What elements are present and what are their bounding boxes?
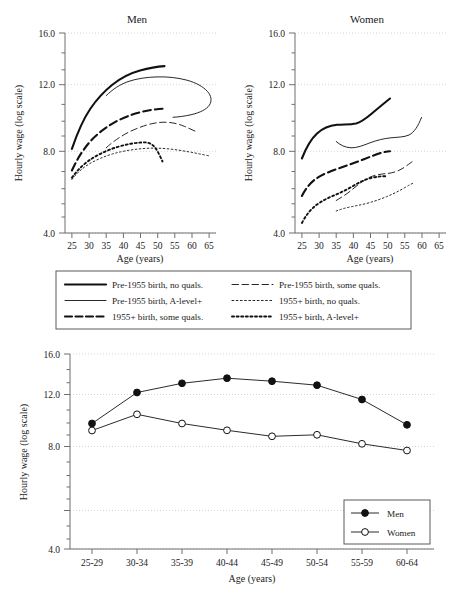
panel-women-xtick-50: 50	[383, 241, 393, 251]
panel-men-xtick-55: 55	[170, 241, 180, 251]
curve-women-pre1955-some-quals	[336, 162, 412, 201]
panel-bottom-ytick-4: 4.0	[48, 545, 60, 555]
panel-bottom-xtick-7: 60-64	[396, 558, 418, 568]
panel-bottom-xtick-1: 30-34	[126, 558, 148, 568]
curve-women-pre1955-no-quals	[302, 99, 390, 159]
panel-men-xlabel: Age (years)	[117, 253, 164, 265]
panel-bottom-yaxis: 16.0 12.0 8.0 4.0 Hourly wage (log scale…	[18, 350, 70, 555]
legend-label-pre1955-alevel: Pre-1955 birth, A-level+	[112, 296, 202, 306]
panel-women-xtick-35: 35	[331, 241, 341, 251]
curve-men-pre1955-no-quals	[72, 66, 165, 149]
panel-women-ylabel: Hourly wage (log scale)	[243, 85, 255, 181]
panel-bottom-xlabel: Age (years)	[229, 573, 276, 585]
panel-men-xaxis: 25 30 35 40 45 50 55 60 65 Age (years)	[65, 233, 216, 265]
curve-men-pre1955-some-quals	[106, 122, 197, 148]
panel-women-ytick-16: 16.0	[268, 29, 285, 39]
series-women-point	[269, 433, 276, 440]
series-men-point	[359, 396, 366, 403]
series-women-point	[359, 440, 366, 447]
series-men-point	[224, 375, 231, 382]
panel-women-title: Women	[350, 13, 384, 25]
series-women-point	[179, 420, 186, 427]
series-women-point	[314, 431, 321, 438]
panel-bottom-ylabel: Hourly wage (log scale)	[18, 404, 30, 500]
legend-bottom: Men Women	[344, 500, 430, 544]
series-women	[89, 411, 411, 454]
legend-label-1955plus-no-quals: 1955+ birth, no quals.	[279, 296, 360, 306]
legend-label-pre1955-no-quals: Pre-1955 birth, no quals.	[112, 280, 203, 290]
curve-women-1955plus-alevel	[302, 176, 387, 223]
panel-men-ytick-12: 12.0	[38, 80, 55, 90]
panel-bottom-xtick-0: 25-29	[81, 558, 103, 568]
curve-women-1955plus-no-quals	[336, 184, 412, 212]
series-women-point	[134, 411, 141, 418]
panel-women-ytick-12: 12.0	[268, 80, 285, 90]
panel-men-xtick-35: 35	[101, 241, 111, 251]
legend-bottom-women-label: Women	[387, 528, 416, 538]
panel-men-xtick-65: 65	[204, 241, 214, 251]
panel-men: Men	[13, 13, 216, 265]
panel-men-xtick-25: 25	[67, 241, 77, 251]
figure-svg: Men	[0, 0, 463, 602]
legend-label-1955plus-some-quals: 1955+ birth, some quals.	[112, 312, 203, 322]
legend-bottom-men-marker	[362, 510, 369, 517]
series-men-point	[89, 420, 96, 427]
legend-bottom-women-marker	[362, 529, 369, 536]
panel-men-xtick-60: 60	[187, 241, 197, 251]
figure-container: Men	[0, 0, 463, 602]
panel-women-yaxis: 16.0 12.0 8.0 4.0 Hourly wage (log scale…	[243, 29, 295, 239]
panel-bottom-xtick-3: 40-44	[216, 558, 238, 568]
legend-bottom-men-label: Men	[387, 509, 404, 519]
series-men-point	[314, 382, 321, 389]
panel-men-yaxis: 16.0 12.0 8.0 4.0 Hourly wage (log scale…	[13, 29, 65, 239]
panel-women-xaxis: 25 30 35 40 45 50 55 60 65 Age (years)	[295, 233, 446, 265]
panel-bottom: 16.0 12.0 8.0 4.0 Hourly wage (log scale…	[18, 350, 434, 586]
panel-bottom-xtick-2: 35-39	[171, 558, 193, 568]
legend-label-1955plus-alevel: 1955+ birth, A-level+	[279, 312, 359, 322]
panel-women-xtick-60: 60	[417, 241, 427, 251]
series-women-point	[89, 427, 96, 434]
panel-women-xtick-65: 65	[434, 241, 444, 251]
curve-women-pre1955-alevel	[336, 118, 421, 148]
panel-men-gridlines	[65, 33, 216, 233]
panel-bottom-xtick-4: 45-49	[261, 558, 283, 568]
panel-bottom-ytick-16: 16.0	[43, 350, 60, 360]
curve-men-1955plus-no-quals	[72, 148, 209, 179]
series-men-point	[134, 389, 141, 396]
panel-women-xtick-45: 45	[366, 241, 376, 251]
panel-men-title: Men	[127, 13, 148, 25]
panel-men-xtick-45: 45	[136, 241, 146, 251]
panel-men-ytick-16: 16.0	[38, 29, 55, 39]
panel-men-xtick-30: 30	[84, 241, 94, 251]
panel-women-xtick-25: 25	[297, 241, 307, 251]
panel-bottom-xaxis: 25-29 30-34 35-39 40-44 45-49 50-54 55-5…	[70, 549, 434, 585]
panel-women-curves	[302, 99, 422, 224]
panel-women-xtick-30: 30	[314, 241, 324, 251]
series-men-point	[179, 380, 186, 387]
panel-men-ylabel: Hourly wage (log scale)	[13, 85, 25, 181]
panel-women-xlabel: Age (years)	[347, 253, 394, 265]
series-men-point	[269, 378, 276, 385]
legend-label-pre1955-some-quals: Pre-1955 birth, some quals.	[279, 280, 380, 290]
panel-men-curves	[72, 66, 211, 179]
panel-women-ytick-8: 8.0	[273, 147, 285, 157]
series-men-point	[404, 421, 411, 428]
curve-men-pre1955-alevel	[106, 77, 211, 117]
panel-bottom-xtick-6: 55-59	[351, 558, 373, 568]
panel-bottom-ytick-8: 8.0	[48, 442, 60, 452]
series-men	[89, 375, 411, 428]
panel-men-xtick-50: 50	[153, 241, 163, 251]
panel-men-ytick-4: 4.0	[43, 229, 55, 239]
panel-bottom-xtick-5: 50-54	[306, 558, 328, 568]
panel-men-xtick-40: 40	[119, 241, 129, 251]
panel-women: Women 1	[243, 13, 446, 265]
panel-bottom-ytick-12: 12.0	[43, 390, 60, 400]
panel-men-ytick-8: 8.0	[43, 147, 55, 157]
legend-top: Pre-1955 birth, no quals. Pre-1955 birth…	[56, 271, 411, 329]
panel-women-xtick-55: 55	[400, 241, 410, 251]
series-women-point	[224, 427, 231, 434]
series-women-point	[404, 447, 411, 454]
panel-women-xtick-40: 40	[349, 241, 359, 251]
panel-women-ytick-4: 4.0	[273, 229, 285, 239]
